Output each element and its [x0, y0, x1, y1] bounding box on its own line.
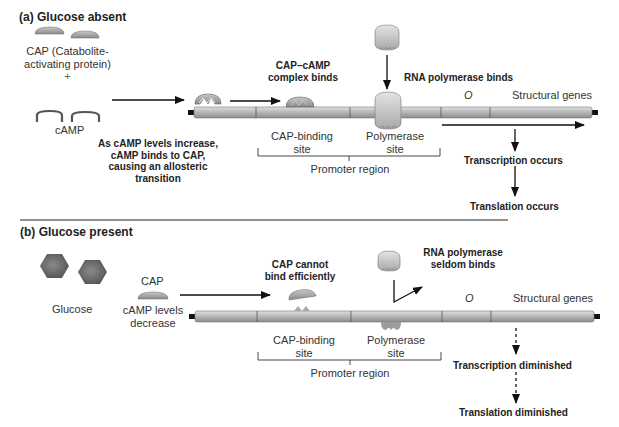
cap-protein-icon [35, 27, 64, 34]
label-line: site [355, 143, 435, 156]
allosteric-note: As cAMP levels increase, cAMP binds to C… [88, 138, 228, 184]
note-line: transition [88, 173, 228, 185]
rna-polymerase-icon [378, 251, 400, 271]
structural-genes-label: Structural genes [512, 89, 592, 102]
dna-end-cap [594, 314, 600, 319]
transcription-occurs-label: Transcription occurs [464, 155, 563, 167]
label-line: seldom binds [418, 259, 508, 271]
camp-icon [37, 111, 62, 122]
camp-icon [72, 112, 99, 122]
polymerase-site-label: Polymerase site [356, 334, 436, 359]
label-line: Polymerase [356, 334, 436, 347]
panel-a-heading: (a) Glucose absent [19, 11, 126, 25]
cap-binding-site-label: CAP-binding site [262, 130, 342, 155]
cap-binding-site-bumps [294, 306, 310, 311]
glucose-icon [78, 260, 107, 284]
bound-rna-polymerase-icon [375, 92, 401, 129]
glucose-label: Glucose [52, 303, 92, 316]
camp-label: cAMP [55, 124, 84, 137]
note-line: cAMP binds to CAP, [88, 150, 228, 162]
label-line: decrease [115, 317, 191, 330]
promoter-region-label: Promoter region [300, 367, 400, 380]
polymerase-site-bumps [381, 322, 401, 330]
rna-pol-seldom-label: RNA polymerase seldom binds [418, 247, 508, 270]
label-line: RNA polymerase [418, 247, 508, 259]
label-line: complex binds [258, 72, 348, 84]
note-line: As cAMP levels increase, [88, 138, 228, 150]
label-line: cAMP levels [115, 304, 191, 317]
translation-occurs-label: Translation occurs [470, 201, 559, 213]
plus-sign: + [20, 70, 115, 83]
note-line: causing an allosteric [88, 161, 228, 173]
cap-protein-icon [138, 292, 168, 299]
operator-label: O [464, 89, 473, 102]
dna-end-cap [188, 110, 194, 115]
label-line: CAP cannot [260, 259, 340, 271]
label-line: CAP-binding [264, 334, 344, 347]
label-line: site [356, 347, 436, 360]
deflect-arrow-icon [394, 280, 422, 302]
label-line: bind efficiently [260, 271, 340, 283]
rna-pol-binds-label: RNA polymerase binds [404, 72, 513, 84]
label-line: CAP-binding [262, 130, 342, 143]
transcription-diminished-label: Transcription diminished [453, 360, 572, 372]
camp-decrease-label: cAMP levels decrease [115, 304, 191, 329]
label-line: CAP–cAMP [258, 60, 348, 72]
cap-label: CAP (Catabolite- activating protein) + [20, 45, 115, 83]
cap-binding-site-label: CAP-binding site [264, 334, 344, 359]
operator-label: O [465, 292, 474, 305]
unbound-cap-icon [289, 290, 316, 300]
structural-genes-label: Structural genes [513, 292, 593, 305]
cap-label: CAP [141, 275, 164, 288]
complex-binds-label: CAP–cAMP complex binds [258, 60, 348, 83]
cap-label-line: CAP (Catabolite- [20, 45, 115, 58]
promoter-region-label: Promoter region [300, 163, 400, 176]
rna-polymerase-icon [375, 25, 399, 50]
cap-protein-icon [71, 31, 99, 38]
panel-b-heading: (b) Glucose present [20, 226, 133, 240]
label-line: site [262, 143, 342, 156]
translation-diminished-label: Translation diminished [459, 407, 568, 419]
label-line: site [264, 347, 344, 360]
bound-cap-camp-icon [286, 97, 314, 107]
dna-strand [195, 311, 594, 322]
dna-end-cap [592, 110, 598, 115]
glucose-icon [40, 254, 69, 278]
cap-label-line: activating protein) [20, 58, 115, 71]
polymerase-site-label: Polymerase site [355, 130, 435, 155]
label-line: Polymerase [355, 130, 435, 143]
cap-cannot-bind-label: CAP cannot bind efficiently [260, 259, 340, 282]
